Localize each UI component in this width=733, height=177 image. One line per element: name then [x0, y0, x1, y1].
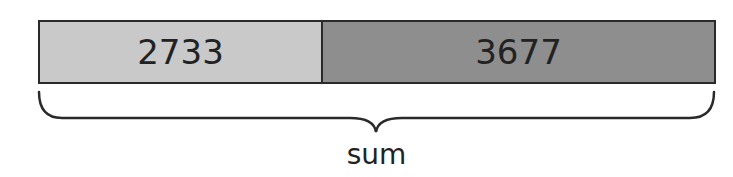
sum-label: sum: [0, 138, 733, 171]
